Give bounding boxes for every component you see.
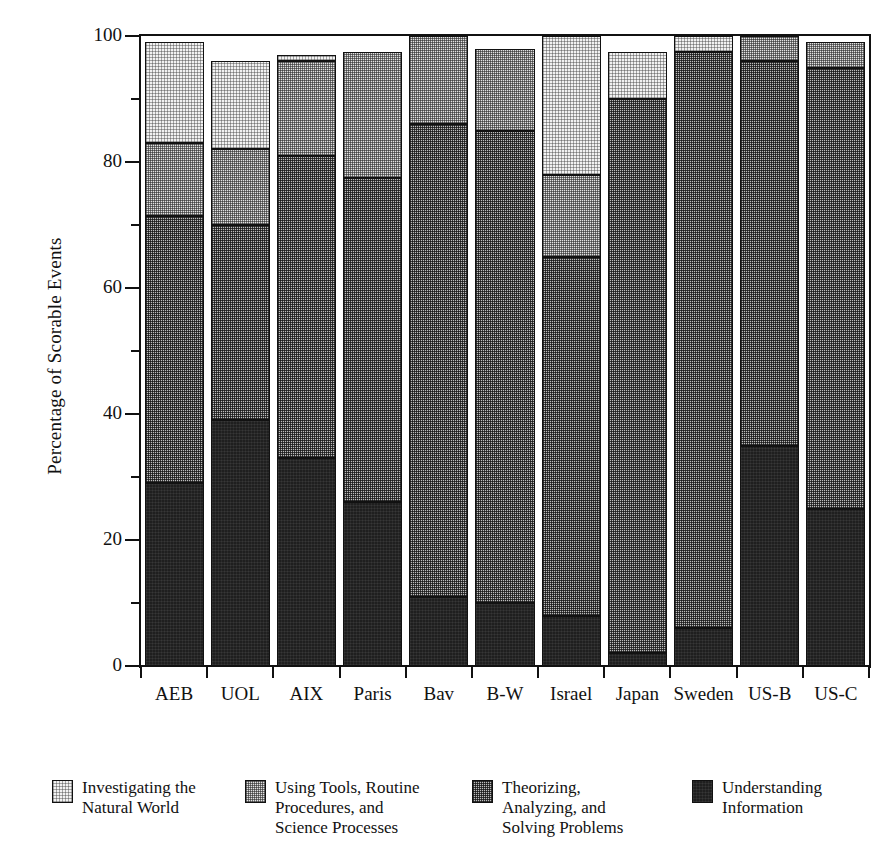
bar-segment — [277, 61, 336, 156]
bar-segment — [475, 603, 534, 666]
x-tick-label-aeb: AEB — [141, 683, 207, 705]
plot-right-border — [869, 34, 871, 668]
x-tick — [339, 667, 341, 678]
y-tick-label: 40 — [0, 403, 122, 422]
legend-swatch-icon — [245, 780, 266, 803]
y-tick-major — [125, 35, 140, 37]
legend-swatch-icon — [692, 780, 713, 803]
y-tick-major — [125, 161, 140, 163]
bar-segment — [740, 61, 799, 445]
y-tick-label: 0 — [0, 655, 122, 674]
y-tick-minor — [131, 350, 140, 352]
bar-segment — [145, 483, 204, 666]
bar-segment — [740, 36, 799, 61]
bar-segment — [145, 143, 204, 215]
legend-label: Investigating the Natural World — [82, 778, 196, 818]
bar-segment — [674, 52, 733, 628]
legend-label: Using Tools, Routine Procedures, and Sci… — [275, 778, 419, 838]
y-tick-minor — [131, 476, 140, 478]
bar-segment — [806, 68, 865, 509]
bar-uol — [211, 36, 270, 666]
bar-segment — [145, 216, 204, 484]
bar-segment — [145, 42, 204, 143]
bar-segment — [277, 55, 336, 61]
bar-japan — [608, 36, 667, 666]
x-tick-label-sweden: Sweden — [670, 683, 736, 705]
x-tick-label-uol: UOL — [207, 683, 273, 705]
bar-aix — [277, 36, 336, 666]
y-tick-label: 60 — [0, 277, 122, 296]
bar-segment — [608, 99, 667, 653]
bar-us-c — [806, 36, 865, 666]
x-tick — [272, 667, 274, 678]
x-tick-label-japan: Japan — [604, 683, 670, 705]
x-tick — [603, 667, 605, 678]
y-tick-label: 80 — [0, 151, 122, 170]
bar-segment — [542, 257, 601, 616]
bar-segment — [475, 131, 534, 604]
bar-aeb — [145, 36, 204, 666]
legend-swatch-icon — [52, 780, 73, 803]
bar-segment — [211, 225, 270, 420]
bar-segment — [542, 616, 601, 666]
bar-segment — [409, 36, 468, 124]
bar-segment — [343, 52, 402, 178]
bar-segment — [211, 420, 270, 666]
x-tick — [471, 667, 473, 678]
x-tick-label-aix: AIX — [273, 683, 339, 705]
bar-segment — [277, 156, 336, 458]
bar-bav — [409, 36, 468, 666]
y-tick-label: 20 — [0, 529, 122, 548]
x-tick — [868, 667, 870, 678]
bar-segment — [608, 52, 667, 99]
chart-legend: Investigating the Natural WorldUsing Too… — [52, 778, 852, 858]
bar-segment — [542, 36, 601, 175]
bar-segment — [806, 509, 865, 667]
bar-segment — [608, 653, 667, 666]
bar-segment — [409, 597, 468, 666]
x-tick-label-us-b: US-B — [737, 683, 803, 705]
y-tick-label: 100 — [0, 25, 122, 44]
x-tick-label-israel: Israel — [538, 683, 604, 705]
bar-paris — [343, 36, 402, 666]
bar-segment — [674, 36, 733, 52]
bar-segment — [740, 446, 799, 667]
bar-segment — [542, 175, 601, 257]
y-tick-minor — [131, 602, 140, 604]
y-tick-major — [125, 413, 140, 415]
y-tick-major — [125, 665, 140, 667]
bar-us-b — [740, 36, 799, 666]
bar-segment — [211, 61, 270, 149]
bar-israel — [542, 36, 601, 666]
stacked-bar-chart: Percentage of Scorable Events 0204060801… — [0, 0, 884, 863]
bar-sweden — [674, 36, 733, 666]
x-tick — [537, 667, 539, 678]
bar-segment — [475, 49, 534, 131]
x-tick — [802, 667, 804, 678]
bar-segment — [277, 458, 336, 666]
bar-segment — [343, 178, 402, 502]
legend-item: Using Tools, Routine Procedures, and Sci… — [245, 778, 419, 838]
legend-label: Understanding Information — [722, 778, 822, 818]
legend-item: Understanding Information — [692, 778, 822, 818]
x-tick — [669, 667, 671, 678]
x-tick — [405, 667, 407, 678]
legend-item: Theorizing, Analyzing, and Solving Probl… — [472, 778, 623, 838]
x-tick-label-us-c: US-C — [803, 683, 869, 705]
bar-segment — [806, 42, 865, 67]
bar-segment — [343, 502, 402, 666]
bar-b-w — [475, 36, 534, 666]
bar-segment — [674, 628, 733, 666]
x-tick — [206, 667, 208, 678]
y-tick-major — [125, 287, 140, 289]
y-tick-minor — [131, 98, 140, 100]
x-tick — [140, 667, 142, 678]
x-tick-label-bav: Bav — [406, 683, 472, 705]
legend-item: Investigating the Natural World — [52, 778, 196, 818]
x-tick-label-b-w: B-W — [472, 683, 538, 705]
y-tick-major — [125, 539, 140, 541]
legend-swatch-icon — [472, 780, 493, 803]
x-tick — [736, 667, 738, 678]
bar-segment — [211, 149, 270, 225]
bar-segment — [409, 124, 468, 597]
